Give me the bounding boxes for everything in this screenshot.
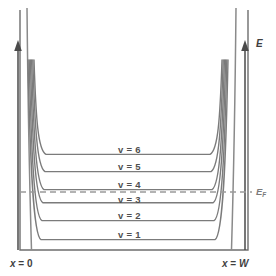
level-label-3: v = 3 <box>118 194 141 205</box>
x-origin-label-eq: = <box>18 258 24 269</box>
level-label-6: v = 6 <box>118 144 141 155</box>
fermi-level-label: EF <box>256 186 266 197</box>
x-origin-label: x = 0 <box>10 258 33 269</box>
energy-axis-label: E <box>256 38 263 49</box>
figure-canvas: v = 6 v = 5 v = 4 v = 3 v = 2 v = 1 E EF… <box>0 0 276 276</box>
level-label-5: v = 5 <box>118 161 141 172</box>
x-width-label-eq: = <box>230 258 236 269</box>
x-width-label-value: W <box>239 258 248 269</box>
fermi-level-label-subscript: F <box>262 191 266 198</box>
x-origin-label-value: 0 <box>27 258 33 269</box>
level-label-1: v = 1 <box>118 229 141 240</box>
x-width-label: x = W <box>222 258 248 269</box>
right-barrier-wall <box>232 8 237 250</box>
x-width-label-var: x <box>222 258 228 269</box>
energy-level-curve-6 <box>34 60 222 154</box>
level-label-2: v = 2 <box>118 210 141 221</box>
x-origin-label-var: x <box>10 258 16 269</box>
level-label-4: v = 4 <box>118 179 141 190</box>
